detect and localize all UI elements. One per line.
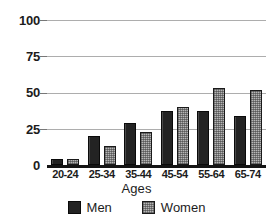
legend-swatch-women-icon — [142, 201, 155, 214]
x-tick-label-25-34: 25-34 — [84, 168, 121, 180]
bar-group-25-34 — [84, 20, 121, 165]
legend-entry-men: Men — [68, 200, 112, 215]
x-tick-label-20-24: 20-24 — [47, 168, 84, 180]
legend-entry-women: Women — [142, 200, 206, 215]
y-tick-label-0: 0 — [0, 158, 40, 173]
bar-group-35-44 — [120, 20, 157, 165]
bar-men-35-44 — [124, 123, 136, 165]
bar-women-35-44 — [140, 132, 152, 165]
bar-men-65-74 — [234, 116, 246, 165]
y-tick-label-75: 75 — [0, 49, 40, 64]
x-tick-label-55-64: 55-64 — [193, 168, 230, 180]
y-tick-label-50: 50 — [0, 85, 40, 100]
bar-group-65-74 — [230, 20, 267, 165]
y-tick-label-100: 100 — [0, 13, 40, 28]
bar-women-45-54 — [177, 107, 189, 165]
bar-women-25-34 — [104, 146, 116, 165]
bar-groups — [47, 20, 266, 165]
chart-legend: Men Women — [0, 200, 273, 215]
legend-label-women: Women — [161, 200, 206, 215]
legend-swatch-men-icon — [68, 201, 81, 214]
x-tick-label-65-74: 65-74 — [230, 168, 267, 180]
x-tick-label-45-54: 45-54 — [157, 168, 194, 180]
x-axis-title: Ages — [0, 181, 273, 196]
bar-men-20-24 — [51, 159, 63, 165]
plot-area — [47, 20, 266, 165]
bar-group-45-54 — [157, 20, 194, 165]
bar-women-65-74 — [250, 90, 262, 165]
legend-label-men: Men — [87, 200, 112, 215]
bar-group-55-64 — [193, 20, 230, 165]
bar-chart: 100 75 50 25 0 — [0, 0, 273, 223]
y-tick-label-25: 25 — [0, 122, 40, 137]
bar-men-55-64 — [197, 111, 209, 165]
bar-men-45-54 — [161, 111, 173, 165]
bar-men-25-34 — [88, 136, 100, 165]
bar-group-20-24 — [47, 20, 84, 165]
x-axis-tick-labels: 20-24 25-34 35-44 45-54 55-64 65-74 — [47, 168, 266, 180]
x-tick-label-35-44: 35-44 — [120, 168, 157, 180]
bar-women-55-64 — [213, 88, 225, 165]
bar-women-20-24 — [67, 159, 79, 165]
